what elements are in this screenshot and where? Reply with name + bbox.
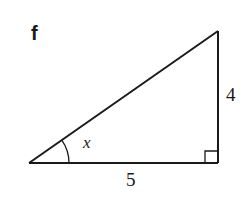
base-length-label: 5: [126, 170, 136, 189]
hypotenuse: [29, 31, 218, 163]
part-label: f: [31, 23, 38, 43]
right-angle-marker-icon: [205, 151, 218, 163]
triangle-diagram: f x 5 4: [0, 0, 243, 200]
angle-arc-icon: [62, 140, 69, 163]
height-length-label: 4: [226, 85, 236, 104]
angle-label: x: [83, 134, 91, 151]
